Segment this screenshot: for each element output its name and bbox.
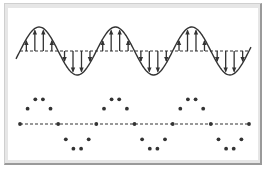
sample-dot bbox=[33, 97, 37, 101]
sample-dot bbox=[18, 122, 22, 126]
sample-dot bbox=[117, 97, 121, 101]
sample-dot bbox=[186, 97, 190, 101]
sample-dot bbox=[224, 147, 228, 151]
sample-dot bbox=[247, 122, 251, 126]
continuous-wave bbox=[16, 27, 251, 75]
sample-dot bbox=[171, 122, 175, 126]
sample-dot bbox=[56, 122, 60, 126]
sample-dot bbox=[217, 137, 221, 141]
sample-dot bbox=[148, 147, 152, 151]
sample-dot bbox=[125, 107, 129, 111]
sample-dot bbox=[102, 107, 106, 111]
sample-dot bbox=[41, 97, 45, 101]
sample-dot bbox=[209, 122, 213, 126]
sample-dot bbox=[87, 137, 91, 141]
sample-dot bbox=[72, 147, 76, 151]
wave-diagram bbox=[0, 0, 267, 171]
sample-dot bbox=[232, 147, 236, 151]
sample-dot bbox=[240, 137, 244, 141]
sample-dot bbox=[49, 107, 53, 111]
sample-dot bbox=[163, 137, 167, 141]
sample-dot bbox=[140, 137, 144, 141]
sample-dot bbox=[79, 147, 83, 151]
sample-dot bbox=[201, 107, 205, 111]
sample-dot bbox=[178, 107, 182, 111]
sample-dot bbox=[133, 122, 137, 126]
sample-dot bbox=[156, 147, 160, 151]
sample-dot bbox=[94, 122, 98, 126]
sample-dot bbox=[26, 107, 30, 111]
sampled-wave bbox=[18, 97, 251, 150]
sample-dot bbox=[64, 137, 68, 141]
sample-dot bbox=[110, 97, 114, 101]
sample-dot bbox=[194, 97, 198, 101]
